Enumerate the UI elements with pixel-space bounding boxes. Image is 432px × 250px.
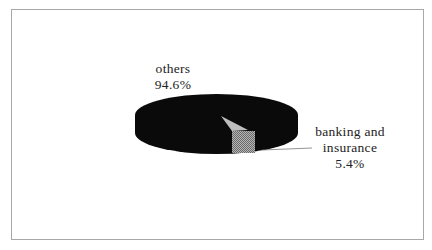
label-others: others 94.6% [128, 61, 218, 93]
label-banking-name-2: insurance [300, 140, 400, 156]
label-banking-name-1: banking and [300, 124, 400, 140]
label-others-value: 94.6% [128, 77, 218, 93]
label-banking: banking and insurance 5.4% [300, 124, 400, 172]
pie-slice-others [135, 94, 298, 136]
pie-side-banking [232, 131, 255, 153]
label-others-name: others [128, 61, 218, 77]
label-banking-value: 5.4% [300, 156, 400, 172]
